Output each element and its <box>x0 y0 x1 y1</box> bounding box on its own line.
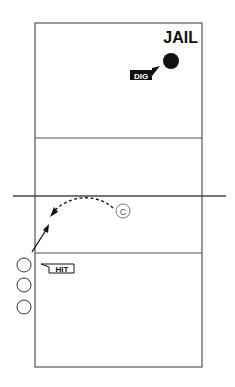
player-marker-3 <box>17 300 31 314</box>
hit-label: HIT <box>41 264 74 274</box>
drill-diagram: JAIL DIG C HIT <box>0 0 235 387</box>
court-outline <box>35 23 202 367</box>
coach-label: C <box>120 207 127 217</box>
coach-marker: C <box>116 204 130 218</box>
hit-label-text: HIT <box>56 265 69 274</box>
dig-label: DIG <box>130 66 160 81</box>
drill-title: JAIL <box>163 29 198 46</box>
dashed-arrow-icon <box>50 198 113 217</box>
dig-label-text: DIG <box>134 72 148 81</box>
ball-icon <box>163 53 179 69</box>
player-marker-2 <box>17 278 31 292</box>
player-marker-1 <box>17 258 31 272</box>
